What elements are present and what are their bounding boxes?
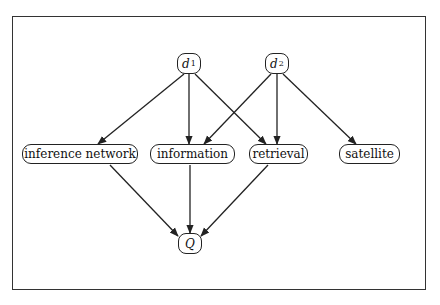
node-d2-subscript: 2 [279, 59, 284, 68]
edge-d2-satellite [283, 74, 356, 144]
node-inference-network-label: inference network [24, 147, 135, 161]
edge-inference-network-q [110, 165, 178, 236]
edge-d1-inference-network [98, 74, 184, 144]
node-d2: d2 [265, 53, 289, 74]
node-d1: d1 [177, 53, 201, 74]
node-information-label: information [157, 147, 228, 161]
node-information: information [150, 144, 235, 164]
node-satellite-label: satellite [345, 147, 394, 161]
node-retrieval-label: retrieval [252, 147, 304, 161]
node-d1-label: d [182, 57, 190, 71]
node-inference-network: inference network [22, 144, 138, 164]
edge-d1-retrieval [195, 74, 266, 144]
node-q-label: Q [185, 237, 195, 251]
node-q: Q [178, 233, 202, 254]
edge-d2-information [204, 74, 271, 144]
node-satellite: satellite [339, 144, 400, 164]
node-d1-subscript: 1 [191, 59, 196, 68]
node-retrieval: retrieval [249, 144, 308, 164]
edge-retrieval-q [201, 165, 268, 236]
node-d2-label: d [270, 57, 278, 71]
